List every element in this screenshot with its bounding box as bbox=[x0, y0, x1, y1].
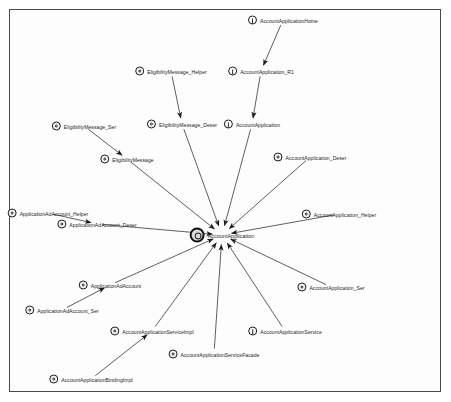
node-ApplicationAdAccount[interactable]: ApplicationAdAccount bbox=[79, 281, 142, 290]
node-label: EligibilityMessage_Helper bbox=[147, 68, 207, 74]
class-icon bbox=[52, 122, 61, 131]
node-EligibilityMessage_Deser[interactable]: EligibilityMessage_Deser bbox=[147, 120, 217, 129]
node-AccountApplication_Ser[interactable]: AccountApplication_Ser bbox=[297, 283, 364, 292]
interface-icon bbox=[248, 16, 257, 25]
node-label: AccountApplication_Deser bbox=[286, 154, 347, 160]
class-icon bbox=[57, 220, 66, 229]
class-icon bbox=[147, 120, 156, 129]
diagram-frame bbox=[9, 9, 441, 392]
node-AccountApplication_Helper[interactable]: AccountApplication_Helper bbox=[302, 210, 376, 219]
node-AccountApplicationHome[interactable]: AccountApplicationHome bbox=[248, 16, 318, 25]
node-label: AccountApplication_R1 bbox=[240, 68, 294, 74]
node-label: AccountApplicationServiceImpl bbox=[122, 328, 193, 334]
node-label: AccountApplicationHome bbox=[260, 17, 318, 23]
node-AccountApplication_Deser[interactable]: AccountApplication_Deser bbox=[274, 153, 347, 162]
class-icon bbox=[25, 306, 34, 315]
class-icon bbox=[49, 375, 58, 384]
interface-icon bbox=[224, 120, 233, 129]
node-ApplicationAdAccount_Helper[interactable]: ApplicationAdAccount_Helper bbox=[8, 209, 89, 218]
node-label: AccountApplication bbox=[236, 121, 280, 127]
node-label: EligibilityMessage_Deser bbox=[159, 121, 217, 127]
node-label: ApplicationAdAccount_Deser bbox=[69, 221, 136, 227]
node-ApplicationAdAccount_Deser[interactable]: ApplicationAdAccount_Deser bbox=[57, 220, 136, 229]
node-label: AccountApplicationService bbox=[260, 328, 322, 334]
node-AccountApplication[interactable]: AccountApplication bbox=[224, 120, 280, 129]
node-AccountApplication_R1[interactable]: AccountApplication_R1 bbox=[228, 67, 294, 76]
class-icon bbox=[110, 327, 119, 336]
class-icon bbox=[169, 350, 178, 359]
node-center-AccountApplication[interactable]: AccountApplication bbox=[190, 228, 255, 243]
class-icon bbox=[302, 210, 311, 219]
node-label: AccountApplication_Ser bbox=[309, 284, 364, 290]
node-label: ApplicationAdAccount_Helper bbox=[20, 210, 89, 216]
class-icon bbox=[8, 209, 17, 218]
node-label: EligibilityMessage bbox=[112, 156, 153, 162]
class-icon bbox=[274, 153, 283, 162]
class-icon bbox=[79, 281, 88, 290]
node-EligibilityMessage_Ser[interactable]: EligibilityMessage_Ser bbox=[52, 122, 116, 131]
interface-icon bbox=[248, 327, 257, 336]
node-AccountApplicationService[interactable]: AccountApplicationService bbox=[248, 327, 322, 336]
node-ApplicationAdAccount_Ser[interactable]: ApplicationAdAccount_Ser bbox=[25, 306, 99, 315]
node-label: ApplicationAdAccount bbox=[91, 282, 142, 288]
class-icon bbox=[297, 283, 306, 292]
node-AccountApplicationBindingImpl[interactable]: AccountApplicationBindingImpl bbox=[49, 375, 132, 384]
node-label: AccountApplication_Helper bbox=[314, 211, 376, 217]
class-icon bbox=[135, 67, 144, 76]
interface-icon bbox=[228, 67, 237, 76]
node-EligibilityMessage_Helper[interactable]: EligibilityMessage_Helper bbox=[135, 67, 207, 76]
node-AccountApplicationServiceFacade[interactable]: AccountApplicationServiceFacade bbox=[169, 350, 260, 359]
class-icon bbox=[100, 155, 109, 164]
node-label: EligibilityMessage_Ser bbox=[64, 123, 116, 129]
diagram-canvas: AccountApplicationAccountApplicationHome… bbox=[0, 0, 451, 402]
node-AccountApplicationServiceImpl[interactable]: AccountApplicationServiceImpl bbox=[110, 327, 193, 336]
class-icon bbox=[190, 228, 205, 243]
node-EligibilityMessage[interactable]: EligibilityMessage bbox=[100, 155, 153, 164]
node-label: AccountApplicationBindingImpl bbox=[61, 376, 132, 382]
node-label: ApplicationAdAccount_Ser bbox=[37, 307, 99, 313]
node-label: AccountApplication bbox=[208, 232, 255, 238]
node-label: AccountApplicationServiceFacade bbox=[181, 351, 260, 357]
